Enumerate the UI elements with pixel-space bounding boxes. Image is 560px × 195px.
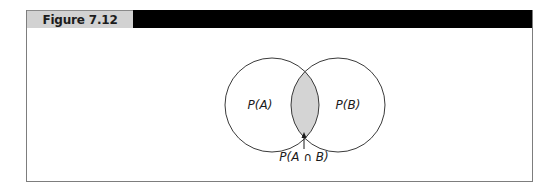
label-p-b: P(B): [336, 98, 361, 112]
label-p-a: P(A): [248, 98, 273, 112]
venn-diagram: P(A) P(B) P(A ∩ B): [0, 0, 560, 195]
label-p-a-intersect-b: P(A ∩ B): [279, 150, 328, 164]
